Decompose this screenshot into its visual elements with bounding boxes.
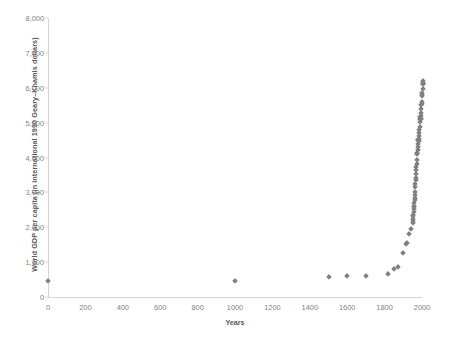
data-point [418, 106, 424, 112]
y-tick-label: 1,000 [4, 258, 44, 267]
x-axis-title: Years [48, 318, 422, 327]
data-point [344, 273, 350, 279]
data-point [419, 102, 425, 108]
data-point [326, 274, 332, 280]
y-tick-mark [45, 122, 48, 123]
data-point [410, 213, 416, 219]
data-point [411, 204, 417, 210]
data-point [415, 147, 421, 153]
x-tick-label: 800 [178, 303, 218, 312]
y-axis-tick-labels: 01,0002,0003,0004,0005,0006,0007,0008,00… [0, 0, 44, 340]
data-point [419, 90, 425, 96]
data-point [412, 192, 418, 198]
y-tick-mark [45, 192, 48, 193]
data-point [408, 226, 414, 232]
y-tick-label: 4,000 [4, 153, 44, 162]
data-point [414, 161, 420, 167]
data-point [416, 138, 422, 144]
data-point [420, 79, 426, 85]
data-point [414, 151, 420, 157]
data-point [413, 164, 419, 170]
data-point [400, 250, 406, 256]
data-point [419, 99, 425, 105]
data-point [403, 241, 409, 247]
data-point [414, 151, 420, 157]
data-point [363, 273, 369, 279]
data-point [391, 266, 397, 272]
data-point [415, 137, 421, 143]
data-point [417, 116, 423, 122]
data-point [418, 102, 424, 108]
data-point [232, 278, 238, 284]
x-tick-label: 1400 [290, 303, 330, 312]
data-point [395, 264, 401, 270]
data-point [414, 150, 420, 156]
data-point [413, 167, 419, 173]
y-tick-mark [45, 18, 48, 19]
data-point [417, 119, 423, 125]
data-point [412, 185, 418, 191]
data-point [420, 80, 426, 86]
data-point [410, 212, 416, 218]
x-tick-label: 400 [103, 303, 143, 312]
data-point [413, 175, 419, 181]
data-point [412, 197, 418, 203]
plot-area [0, 0, 456, 340]
y-tick-label: 6,000 [4, 83, 44, 92]
data-point [416, 130, 422, 136]
data-point [411, 206, 417, 212]
x-tick-label: 1200 [252, 303, 292, 312]
y-tick-label: 7,000 [4, 48, 44, 57]
data-point [417, 124, 423, 130]
y-tick-label: 5,000 [4, 118, 44, 127]
data-point [415, 137, 421, 143]
y-tick-label: 2,000 [4, 223, 44, 232]
y-tick-mark [45, 87, 48, 88]
data-point [412, 181, 418, 187]
data-point [416, 127, 422, 133]
y-tick-mark [45, 227, 48, 228]
x-tick-label: 2000 [402, 303, 442, 312]
data-point [414, 157, 420, 163]
data-point [406, 231, 412, 237]
data-point [417, 116, 423, 122]
data-point [413, 177, 419, 183]
y-tick-mark [45, 297, 48, 298]
data-point [412, 195, 418, 201]
data-point [411, 209, 417, 215]
data-point [411, 203, 417, 209]
data-point [412, 189, 418, 195]
data-point [419, 92, 425, 98]
data-point [413, 171, 419, 177]
y-axis-line [48, 18, 49, 297]
data-point [418, 113, 424, 119]
y-tick-mark [45, 262, 48, 263]
data-point [416, 136, 422, 142]
data-point [421, 81, 427, 87]
x-tick-label: 0 [28, 303, 68, 312]
data-point [415, 144, 421, 150]
data-point [416, 133, 422, 139]
x-tick-label: 600 [140, 303, 180, 312]
gdp-per-capita-scatter-chart: World GDP per capita (in international 1… [0, 0, 456, 340]
x-tick-label: 1000 [215, 303, 255, 312]
y-tick-mark [45, 157, 48, 158]
data-point [419, 93, 425, 99]
data-point [411, 200, 417, 206]
y-tick-mark [45, 52, 48, 53]
x-axis-line [48, 297, 422, 298]
data-point [418, 117, 424, 123]
y-tick-label: 8,000 [4, 14, 44, 23]
data-point [415, 141, 421, 147]
data-point [420, 87, 426, 93]
data-point [410, 216, 416, 222]
data-point [415, 137, 421, 143]
y-tick-label: 0 [4, 293, 44, 302]
data-point [418, 110, 424, 116]
data-point [420, 81, 426, 87]
data-point [420, 81, 426, 87]
data-point [385, 271, 391, 277]
data-point [418, 116, 424, 122]
data-point [410, 220, 416, 226]
y-tick-label: 3,000 [4, 188, 44, 197]
